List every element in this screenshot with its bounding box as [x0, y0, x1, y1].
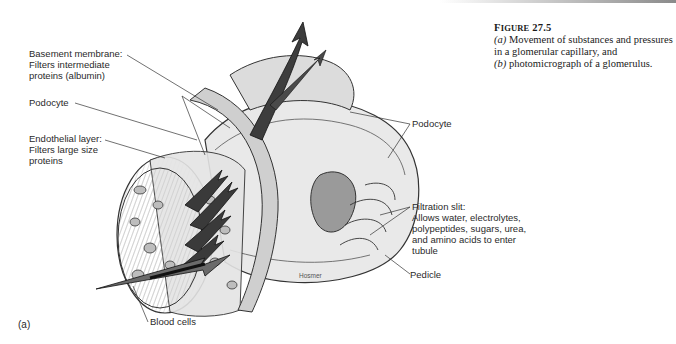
label-basement-membrane: Basement membrane: Filters intermediate … [29, 48, 122, 81]
caption-line-1: (a) Movement of substances and pressures [494, 34, 674, 46]
label-blood-cells: Blood cells [150, 316, 196, 327]
caption-line-3: (b) photomicrograph of a glomerulus. [494, 58, 674, 70]
artist-credit: Hosmer [299, 272, 322, 279]
figure-caption: FIGURE 27.5 (a) Movement of substances a… [494, 22, 674, 70]
caption-line-2: in a glomerular capillary, and [494, 46, 674, 58]
label-endothelial-layer: Endothelial layer: Filters large size pr… [29, 133, 102, 166]
panel-label: (a) [18, 319, 30, 330]
figure-number: FIGURE 27.5 [494, 22, 674, 34]
label-filtration-slit: Filtration slit: Allows water, electroly… [412, 201, 526, 256]
label-podocyte-left: Podocyte [29, 97, 69, 108]
label-podocyte-right: Podocyte [412, 118, 452, 129]
label-pedicle: Pedicle [410, 269, 441, 280]
